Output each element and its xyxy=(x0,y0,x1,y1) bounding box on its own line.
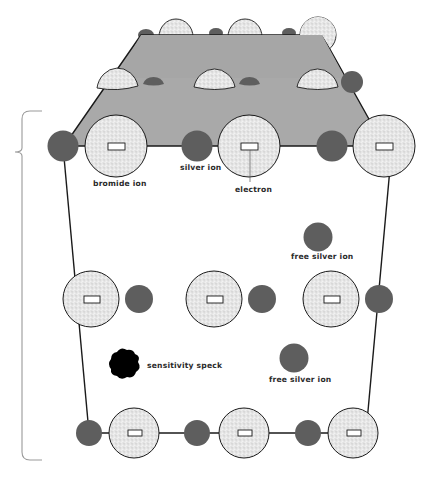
electron xyxy=(238,430,252,436)
bottom-row xyxy=(76,408,378,458)
crystal-brace xyxy=(15,111,42,460)
label-bromide-ion: bromide ion xyxy=(93,179,147,188)
silver-ion xyxy=(182,131,213,162)
electron xyxy=(376,143,393,150)
electron xyxy=(241,143,258,150)
label-free-silver-ion-1: free silver ion xyxy=(291,252,353,261)
label-free-silver-ion-2: free silver ion xyxy=(269,375,331,384)
label-electron: electron xyxy=(235,185,272,194)
free-silver-ion xyxy=(304,223,333,252)
silver-ion xyxy=(248,285,276,313)
electron xyxy=(128,430,142,436)
electron xyxy=(108,143,125,150)
interior-row xyxy=(63,271,393,327)
silver-ion xyxy=(125,285,153,313)
electron xyxy=(324,296,340,303)
silver-ion xyxy=(295,420,321,446)
label-silver-ion: silver ion xyxy=(180,163,221,172)
silver-ion xyxy=(365,285,393,313)
label-sensitivity-speck: sensitivity speck xyxy=(147,361,223,370)
silver-ion xyxy=(48,131,79,162)
silver-ion xyxy=(317,131,348,162)
electron xyxy=(347,430,361,436)
silver-ion xyxy=(184,420,210,446)
silver-ion xyxy=(341,71,363,93)
free-silver-ion xyxy=(280,344,309,373)
electron xyxy=(207,296,223,303)
electron xyxy=(84,296,100,303)
silver-ion xyxy=(76,420,102,446)
sensitivity-speck xyxy=(109,348,140,378)
silver-bromide-crystal-diagram: bromide ion silver ion electron free sil… xyxy=(0,0,434,483)
